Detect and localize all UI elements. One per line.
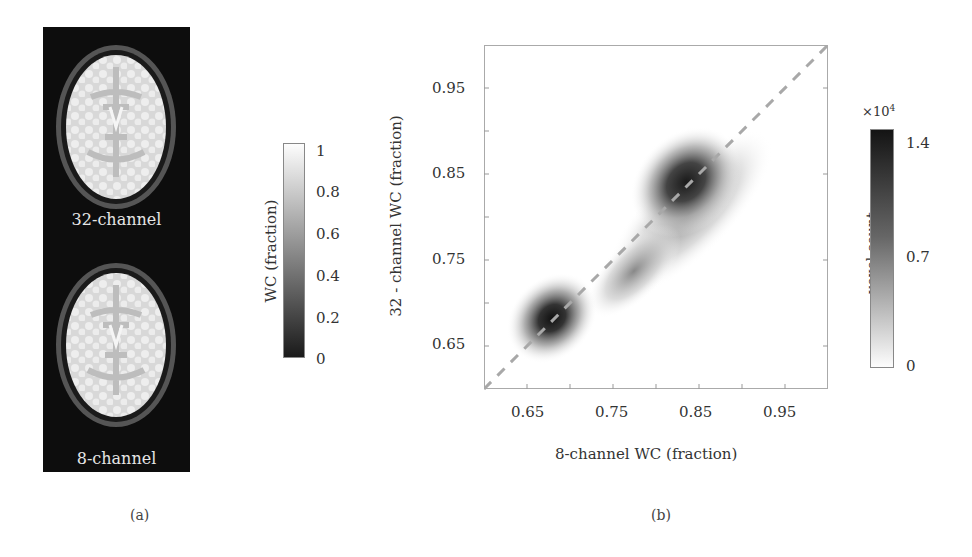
caption-b: (b) <box>651 507 671 523</box>
caption-a: (a) <box>130 507 149 523</box>
y-tick: 0.65 <box>432 335 465 353</box>
x-axis-label: 8-channel WC (fraction) <box>555 445 737 463</box>
brain-8-channel <box>56 263 176 427</box>
colorbar-b-tick: 0.7 <box>906 248 930 266</box>
y-axis-label: 32 - channel WC (fraction) <box>387 106 405 326</box>
colorbar-a-tick: 0.6 <box>316 225 340 243</box>
joint-histogram-plot <box>484 45 829 390</box>
x-tick: 0.65 <box>511 403 544 421</box>
x-tick: 0.75 <box>595 403 628 421</box>
colorbar-a-tick: 1 <box>316 142 326 160</box>
colorbar-b <box>870 129 894 368</box>
brain-32-channel <box>56 45 176 209</box>
y-tick: 0.85 <box>432 164 465 182</box>
x-tick: 0.85 <box>679 403 712 421</box>
colorbar-b-tick: 0 <box>906 357 916 375</box>
colorbar-a-label: WC (fraction) <box>262 191 280 311</box>
x-tick: 0.95 <box>763 403 796 421</box>
label-32-channel: 32-channel <box>43 210 190 229</box>
brain-image-panel: 32-channel 8-channel <box>43 27 190 472</box>
colorbar-b-multiplier: ×104 <box>862 103 895 119</box>
brain-slices-image <box>43 27 190 472</box>
colorbar-a-tick: 0.2 <box>316 309 340 327</box>
y-tick: 0.75 <box>432 250 465 268</box>
colorbar-a-tick: 0.8 <box>316 183 340 201</box>
colorbar-a-tick: 0.4 <box>316 267 340 285</box>
colorbar-a <box>283 143 305 358</box>
colorbar-a-tick: 0 <box>316 350 326 368</box>
colorbar-b-tick: 1.4 <box>906 134 930 152</box>
label-8-channel: 8-channel <box>43 449 190 468</box>
y-tick: 0.95 <box>432 79 465 97</box>
